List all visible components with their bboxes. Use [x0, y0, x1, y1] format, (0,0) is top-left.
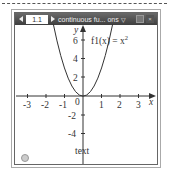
- graph-canvas[interactable]: -3 -2 -1 0 1 2 3 6 4 2 -2 -4 x y f1(x) =…: [0, 0, 169, 173]
- x-tick-label: -2: [41, 100, 49, 110]
- y-tick-label: -4: [68, 129, 76, 139]
- x-tick-label: 3: [136, 100, 141, 110]
- x-tick-label: 1: [99, 100, 104, 110]
- y-axis-label: y: [73, 25, 79, 35]
- y-tick-label: -2: [68, 111, 76, 121]
- y-tick-label: 2: [73, 73, 78, 83]
- x-tick-label: 2: [117, 100, 122, 110]
- x-tick-label: 0: [75, 97, 80, 107]
- x-tick-label: -1: [59, 100, 67, 110]
- x-axis-label: x: [148, 97, 154, 107]
- y-tick-label: 6: [73, 36, 78, 46]
- y-axis-arrow-icon: [80, 25, 86, 32]
- x-tick-label: -3: [23, 100, 31, 110]
- y-tick-label: 4: [73, 54, 78, 64]
- function-exponent: 2: [125, 34, 128, 41]
- text-label[interactable]: text: [75, 146, 90, 156]
